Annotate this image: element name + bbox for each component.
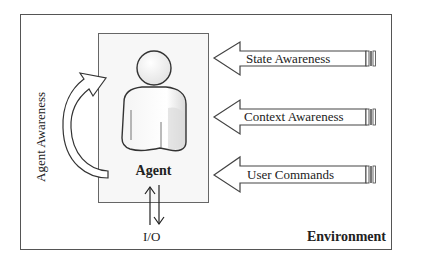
diagram-graphics xyxy=(0,0,428,262)
state-awareness-label: State Awareness xyxy=(246,51,330,67)
io-arrows xyxy=(145,185,164,225)
environment-label: Environment xyxy=(307,229,386,245)
io-label: I/O xyxy=(143,229,160,245)
agent-label: Agent xyxy=(98,163,209,179)
agent-awareness-label: Agent Awareness xyxy=(33,92,49,182)
agent-person-icon xyxy=(122,51,186,151)
context-awareness-label: Context Awareness xyxy=(244,109,344,125)
user-commands-label: User Commands xyxy=(247,167,334,183)
